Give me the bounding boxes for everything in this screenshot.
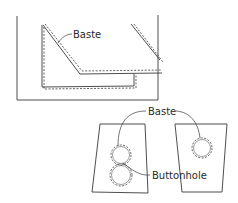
right-fabric-piece (175, 124, 227, 192)
sewing-diagram: Baste Baste Buttonhole (0, 0, 238, 203)
top-fabric-panel: Baste (17, 15, 163, 100)
baste-circle-right (192, 138, 212, 158)
buttonhole-leader (123, 163, 150, 175)
baste-leader-right (176, 111, 200, 138)
baste-leader-top (58, 34, 72, 43)
buttonhole-label: Buttonhole (152, 170, 207, 181)
baste-leader-left (118, 111, 146, 146)
left-fabric-piece (92, 124, 148, 193)
right-lapel-edge (131, 24, 160, 60)
baste-line-right (134, 24, 163, 62)
baste-label-bottom: Baste (148, 106, 176, 117)
buttonhole-circle-upper (111, 145, 131, 165)
bottom-left-panel (92, 124, 148, 193)
baste-label-top: Baste (73, 29, 101, 40)
bottom-right-panel (175, 124, 227, 192)
baste-line-lapel (45, 24, 162, 71)
lapel-edge (43, 25, 162, 74)
